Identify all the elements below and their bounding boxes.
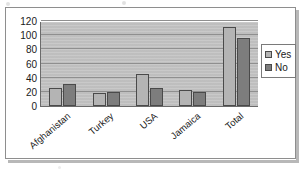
x-axis-label-turkey: Turkey	[69, 111, 115, 152]
bar-usa-yes	[136, 74, 149, 106]
y-axis-tick-label: 100	[7, 31, 37, 41]
bar-afghanistan-no	[63, 84, 76, 106]
y-axis-tick-label: 0	[7, 102, 37, 112]
figure-drop-shadow	[8, 160, 299, 163]
figure-drop-shadow-right	[296, 10, 299, 163]
y-axis-tick-label: 40	[7, 74, 37, 84]
bar-total-yes	[223, 27, 236, 106]
legend-label: No	[275, 62, 288, 73]
bar-turkey-yes	[93, 93, 106, 106]
bar-chart: 120100806040200 AfghanistanTurkeyUSAJama…	[6, 8, 295, 158]
bar-jamaica-no	[193, 92, 206, 106]
legend-swatch-yes-icon	[265, 51, 272, 58]
bar-usa-no	[150, 88, 163, 106]
plot-area	[40, 22, 258, 107]
bar-total-no	[237, 38, 250, 106]
bar-afghanistan-yes	[49, 88, 62, 106]
x-axis-label-jamaica: Jamaica	[156, 111, 202, 152]
y-axis-tick-label: 120	[7, 17, 37, 27]
bar-jamaica-yes	[179, 90, 192, 106]
x-axis-label-usa: USA	[113, 111, 159, 152]
x-axis: AfghanistanTurkeyUSAJamaicaTotal	[40, 107, 258, 157]
x-axis-label-total: Total	[199, 111, 245, 152]
legend-item-no: No	[265, 61, 291, 74]
legend-label: Yes	[275, 49, 291, 60]
gridline	[41, 20, 258, 21]
legend-item-yes: Yes	[265, 48, 291, 61]
y-axis-tick-label: 60	[7, 60, 37, 70]
y-axis-tick-label: 80	[7, 45, 37, 55]
legend-swatch-no-icon	[265, 64, 272, 71]
y-axis-tick-label: 20	[7, 88, 37, 98]
chart-figure-frame: 120100806040200 AfghanistanTurkeyUSAJama…	[5, 7, 296, 159]
x-axis-label-afghanistan: Afghanistan	[26, 111, 72, 152]
y-axis: 120100806040200	[6, 22, 37, 107]
chart-legend: YesNo	[261, 44, 296, 78]
bar-turkey-no	[107, 92, 120, 106]
